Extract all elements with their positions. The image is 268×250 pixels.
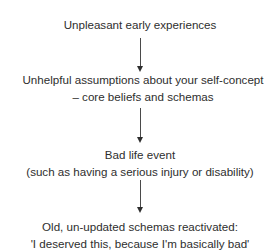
node-text-line: 'I deserved this, because I'm basically … [0, 236, 268, 250]
node-text-line: Bad life event [0, 147, 268, 164]
arrow-down-icon [140, 108, 142, 144]
node-text-line: Unhelpful assumptions about your self-co… [0, 72, 268, 89]
node-unpleasant-early-experiences: Unpleasant early experiences [0, 17, 268, 34]
arrow-down-icon [140, 180, 142, 214]
arrow-down-icon [140, 38, 142, 73]
node-bad-life-event: Bad life event (such as having a serious… [0, 147, 268, 180]
node-text-line: (such as having a serious injury or disa… [0, 164, 268, 181]
node-schemas-reactivated: Old, un-updated schemas reactivated: 'I … [0, 219, 268, 250]
node-text-line: – core beliefs and schemas [0, 89, 268, 106]
node-text-line: Unpleasant early experiences [0, 17, 268, 34]
node-text-line: Old, un-updated schemas reactivated: [0, 219, 268, 236]
node-unhelpful-assumptions: Unhelpful assumptions about your self-co… [0, 72, 268, 105]
